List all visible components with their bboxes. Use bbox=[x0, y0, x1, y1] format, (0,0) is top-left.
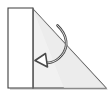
fold-diagram-svg bbox=[0, 0, 112, 99]
paper-fold-figure bbox=[0, 0, 112, 99]
rectangular-fold-flap bbox=[8, 8, 33, 88]
